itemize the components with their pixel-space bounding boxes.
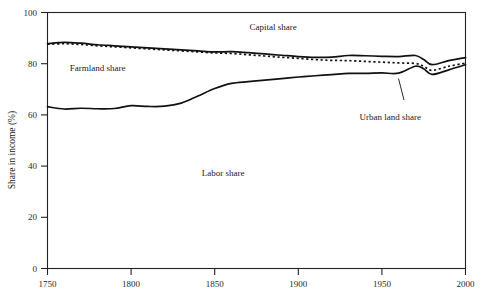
- x-tick-label: 1950: [373, 279, 392, 289]
- annotation-capital-share: Capital share: [250, 22, 297, 32]
- y-tick-label: 100: [24, 8, 38, 18]
- annotation-labor-share: Labor share: [202, 168, 245, 178]
- x-tick-label: 1800: [122, 279, 141, 289]
- x-tick-label: 2000: [457, 279, 476, 289]
- y-tick-label: 80: [28, 59, 38, 69]
- y-tick-label: 20: [28, 212, 38, 222]
- urban-land-share-leader-line: [399, 79, 405, 101]
- x-axis-ticks: [48, 269, 466, 276]
- annotation-urban-land-share: Urban land share: [360, 112, 421, 122]
- y-tick-label: 0: [33, 264, 38, 274]
- y-axis-ticks: [41, 13, 48, 269]
- income-share-chart: 100 80 60 40 20 0 1750 1800 1850 1900 19…: [0, 0, 484, 299]
- y-axis-tick-labels: 100 80 60 40 20 0: [24, 8, 38, 274]
- y-axis-title: Share in income (%): [7, 111, 18, 189]
- x-axis-tick-labels: 1750 1800 1850 1900 1950 2000: [39, 279, 476, 289]
- x-tick-label: 1750: [39, 279, 58, 289]
- annotation-farmland-share: Farmland share: [70, 63, 126, 73]
- chart-figure: 100 80 60 40 20 0 1750 1800 1850 1900 19…: [0, 0, 484, 299]
- x-tick-label: 1900: [289, 279, 308, 289]
- y-tick-label: 60: [28, 110, 38, 120]
- y-tick-label: 40: [28, 161, 38, 171]
- plot-frame: [48, 13, 466, 269]
- x-tick-label: 1850: [206, 279, 225, 289]
